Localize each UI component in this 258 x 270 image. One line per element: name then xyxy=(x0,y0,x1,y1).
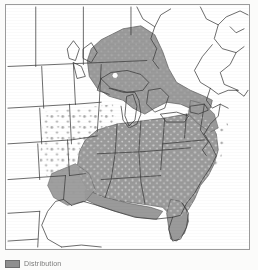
map-frame xyxy=(5,4,250,250)
map-vector xyxy=(6,5,249,249)
legend-swatch-range xyxy=(5,260,20,268)
map-legend: Distribution xyxy=(5,259,61,269)
distribution-map-figure: Distribution xyxy=(0,0,258,270)
legend-label-range: Distribution xyxy=(24,260,61,268)
map-canvas xyxy=(6,5,249,249)
